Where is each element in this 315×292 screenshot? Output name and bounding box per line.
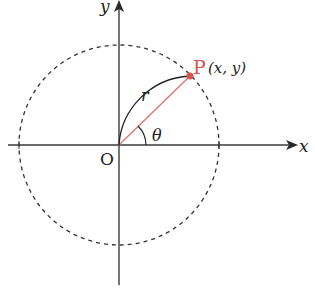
angle-arc <box>138 126 146 145</box>
y-axis-label: y <box>99 0 110 16</box>
point-name-label: P <box>193 56 206 78</box>
x-axis-label: x <box>299 136 309 156</box>
origin-label: O <box>100 149 114 169</box>
polar-coordinate-diagram: y x O r θ P (x, y) <box>0 0 315 292</box>
point-coords-label: (x, y) <box>208 59 246 77</box>
radius-label: r <box>141 86 150 105</box>
angle-label: θ <box>152 126 162 145</box>
